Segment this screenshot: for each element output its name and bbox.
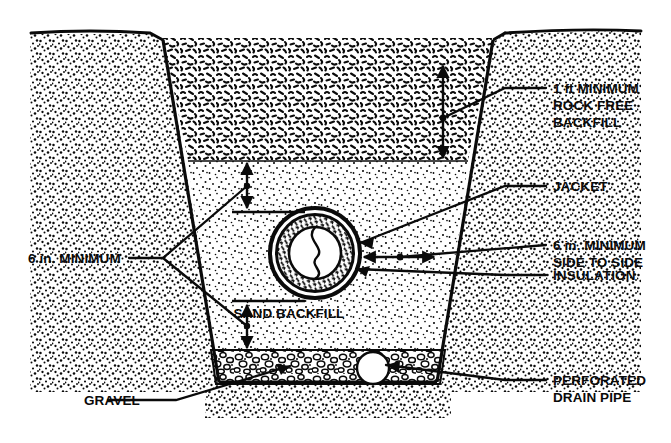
label-sand-backfill: SAND BACKFILL	[234, 306, 345, 321]
label-jacket: JACKET	[553, 179, 608, 194]
rock-free-backfill-layer	[150, 30, 510, 170]
label-perforated-drain-pipe-line1: PERFORATED	[553, 373, 646, 388]
label-six-in-minimum: 6 in. MINIMUM	[28, 251, 121, 266]
trench-cross-section-figure: 1 ft MINIMUM ROCK FREE BACKFILL JACKET 6…	[0, 0, 671, 443]
label-insulation: INSULATION	[553, 268, 636, 283]
label-perforated-drain-pipe-line2: DRAIN PIPE	[553, 390, 631, 405]
label-rock-free-backfill-line2: ROCK FREE	[553, 98, 633, 113]
label-side-to-side-line1: 6 in. MINIMUM	[553, 238, 646, 253]
native-soil-bottom	[205, 380, 451, 418]
insulation-ring	[289, 227, 341, 279]
label-rock-free-backfill-line1: 1 ft MINIMUM	[553, 81, 639, 96]
insulated-pipe-assembly	[270, 208, 360, 298]
label-rock-free-backfill-line3: BACKFILL	[553, 115, 621, 130]
perforated-drain-pipe-circle	[357, 352, 389, 384]
label-gravel: GRAVEL	[84, 393, 140, 408]
diagram-page: 1 ft MINIMUM ROCK FREE BACKFILL JACKET 6…	[0, 0, 671, 443]
